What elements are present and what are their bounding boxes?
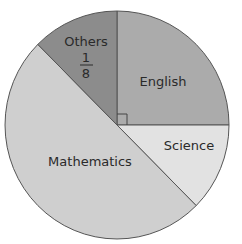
label-others: Others <box>64 34 108 49</box>
label-mathematics: Mathematics <box>48 154 132 169</box>
others-fraction-numerator: 1 <box>82 50 90 65</box>
label-science: Science <box>164 138 214 153</box>
pie-chart: English Science Mathematics Others 1 8 <box>0 0 242 244</box>
slice-english <box>117 11 229 125</box>
label-english: English <box>140 74 187 89</box>
others-fraction-denominator: 8 <box>82 66 90 81</box>
